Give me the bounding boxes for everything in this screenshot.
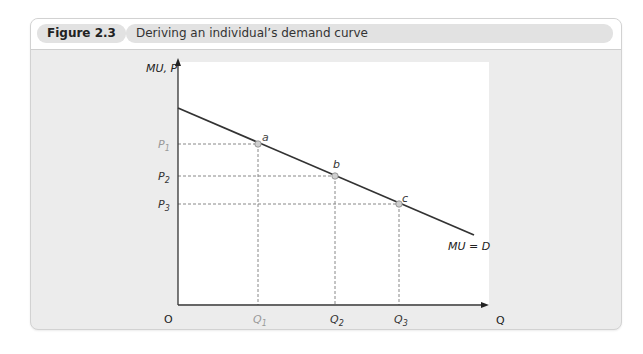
svg-text:P1: P1	[158, 138, 170, 153]
origin-label: O	[164, 313, 173, 326]
x-axis-label: Q	[496, 314, 505, 327]
y-tick-labels: P1 P2 P3	[158, 138, 170, 213]
svg-text:Q1: Q1	[253, 313, 267, 328]
curve-label: MU = D	[448, 240, 490, 253]
svg-text:Q2: Q2	[330, 313, 344, 328]
svg-text:Q3: Q3	[394, 313, 408, 328]
label-b: b	[333, 158, 340, 171]
point-a	[255, 141, 261, 147]
svg-text:P2: P2	[158, 170, 170, 185]
y-axis-label: MU, P	[146, 62, 178, 75]
x-tick-labels: Q1 Q2 Q3	[253, 313, 408, 328]
label-c: c	[402, 192, 408, 205]
svg-text:P3: P3	[158, 198, 170, 213]
point-b	[332, 173, 338, 179]
demand-chart: a b c MU = D MU, P Q O P1 P2 P3 Q1 Q2 Q3	[0, 0, 643, 354]
label-a: a	[262, 131, 269, 144]
plot-area	[178, 62, 489, 306]
